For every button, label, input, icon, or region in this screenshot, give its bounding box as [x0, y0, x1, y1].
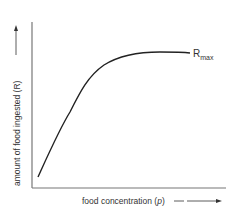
rmax-label: Rmax	[193, 48, 214, 61]
y-axis-label: amount of food ingested (R)	[12, 80, 22, 186]
x-axis-label: food concentration (p)	[82, 196, 165, 206]
intake-curve	[38, 52, 190, 177]
x-arrow-icon	[216, 199, 222, 203]
chart: Rmax amount of food ingested (R) food co…	[0, 0, 233, 219]
y-arrow-icon	[14, 25, 18, 31]
